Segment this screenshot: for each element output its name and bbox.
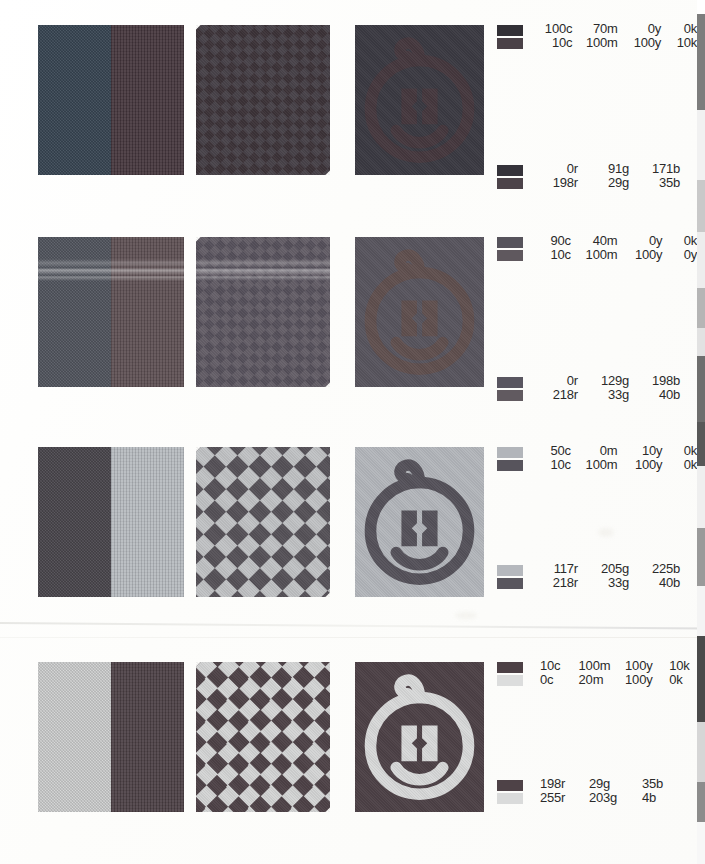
cmyk-value-table: 90c40m0y0k10c100m100y0y (531, 234, 697, 262)
cmyk-magenta: 100m (571, 458, 618, 472)
calibration-segment (697, 14, 705, 110)
rgb-blue: 40b (629, 388, 680, 402)
cmyk-swatch-secondary (497, 675, 523, 686)
cmyk-yellow: 100y (617, 248, 662, 262)
calibration-segment (697, 0, 705, 14)
scan-seam-line-secondary (0, 637, 705, 638)
rgb-red: 117r (531, 562, 578, 576)
patch-texture (111, 662, 184, 812)
rgb-value-row: 255r203g4b (531, 791, 686, 805)
cmyk-swatch-secondary (497, 460, 523, 471)
rgb-value-row: 0r91g171b (531, 162, 680, 176)
patch-texture (196, 662, 330, 812)
halftone-weave-patch (196, 25, 330, 175)
patch-texture (196, 237, 330, 387)
split-patch-right (111, 662, 184, 812)
proof-sheet: 100c70m0y0k10c100m100y10k0r91g171b198r29… (0, 0, 705, 864)
cmyk-legend: 50c0m10y0k10c100m100y0k (497, 447, 697, 473)
rgb-red: 218r (531, 388, 578, 402)
cmyk-yellow: 100y (617, 458, 662, 472)
rgb-swatch-primary (497, 165, 523, 176)
rgb-swatch-secondary (497, 390, 523, 401)
split-patch-right (111, 237, 184, 387)
cmyk-black: 0k (660, 673, 697, 687)
split-patch-right (111, 447, 184, 597)
cmyk-value-row: 100c70m0y0k (531, 22, 697, 36)
rgb-green: 29g (580, 777, 633, 791)
rgb-green: 91g (578, 162, 629, 176)
split-color-patch (38, 25, 184, 175)
cmyk-cyan: 10c (531, 248, 571, 262)
patch-texture (355, 447, 484, 597)
rgb-blue: 35b (633, 777, 686, 791)
rgb-red: 198r (531, 176, 578, 190)
rgb-blue: 198b (629, 374, 680, 388)
patch-texture (111, 447, 184, 597)
rgb-swatch-primary (497, 780, 523, 791)
rgb-value-row: 218r33g40b (531, 388, 680, 402)
split-color-patch (38, 662, 184, 812)
calibration-segment (697, 232, 705, 288)
rgb-value-table: 198r29g35b255r203g4b (531, 777, 686, 805)
baby-face-logo-patch (355, 237, 484, 387)
cmyk-magenta: 40m (571, 234, 618, 248)
cmyk-value-row: 10c100m100y10k (531, 659, 697, 673)
rgb-green: 205g (578, 562, 629, 576)
patch-texture (38, 447, 111, 597)
patch-row: 90c40m0y0k10c100m100y0y0r129g198b218r33g… (0, 237, 705, 387)
split-patch-left (38, 25, 111, 175)
rgb-red: 198r (531, 777, 580, 791)
calibration-segment (697, 180, 705, 232)
cmyk-yellow: 10y (617, 444, 662, 458)
legend-pair: 50c0m10y0k10c100m100y0k (497, 447, 697, 473)
cmyk-swatch-primary (497, 447, 523, 458)
cmyk-yellow: 0y (617, 234, 662, 248)
split-patch-left (38, 447, 111, 597)
cmyk-value-row: 90c40m0y0k (531, 234, 697, 248)
halftone-weave-patch (196, 447, 330, 597)
cmyk-yellow: 100y (616, 659, 660, 673)
split-patch-left (38, 662, 111, 812)
rgb-red: 255r (531, 791, 580, 805)
cmyk-magenta: 0m (571, 444, 618, 458)
calibration-segment (697, 822, 705, 864)
patch-texture (38, 662, 111, 812)
cmyk-value-row: 10c100m100y0k (531, 458, 697, 472)
cmyk-yellow: 100y (618, 36, 661, 50)
rgb-blue: 35b (629, 176, 680, 190)
baby-face-logo-patch (355, 25, 484, 175)
cmyk-yellow: 100y (616, 673, 660, 687)
rgb-red: 0r (531, 162, 578, 176)
patch-texture (111, 25, 184, 175)
paper-smudge (598, 528, 614, 537)
rgb-value-table: 0r91g171b198r29g35b (531, 162, 680, 190)
calibration-segment (697, 782, 705, 822)
rgb-value-table: 0r129g198b218r33g40b (531, 374, 680, 402)
cmyk-value-table: 100c70m0y0k10c100m100y10k (531, 22, 697, 50)
calibration-segment (697, 328, 705, 356)
legend-pair: 90c40m0y0k10c100m100y0y (497, 237, 697, 263)
rgb-blue: 40b (629, 576, 680, 590)
rgb-value-table: 117r205g225b218r33g40b (531, 562, 680, 590)
rgb-value-row: 218r33g40b (531, 576, 680, 590)
cmyk-cyan: 50c (531, 444, 571, 458)
patch-row: 100c70m0y0k10c100m100y10k0r91g171b198r29… (0, 25, 705, 175)
calibration-segment (697, 466, 705, 528)
cmyk-magenta: 100m (571, 248, 618, 262)
rgb-blue: 4b (633, 791, 686, 805)
scan-seam-line (0, 622, 705, 630)
rgb-swatch-primary (497, 377, 523, 388)
rgb-value-row: 198r29g35b (531, 176, 680, 190)
cmyk-value-row: 50c0m10y0k (531, 444, 697, 458)
cmyk-cyan: 10c (531, 36, 572, 50)
split-color-patch (38, 237, 184, 387)
cmyk-magenta: 100m (570, 659, 616, 673)
cmyk-swatch-secondary (497, 250, 523, 261)
cmyk-value-table: 10c100m100y10k0c20m100y0k (531, 659, 697, 687)
calibration-segment (697, 288, 705, 328)
halftone-weave-patch (196, 237, 330, 387)
rgb-swatch-secondary (497, 578, 523, 589)
cmyk-swatch-primary (497, 237, 523, 248)
patch-texture (38, 237, 111, 387)
rgb-swatch-primary (497, 565, 523, 576)
